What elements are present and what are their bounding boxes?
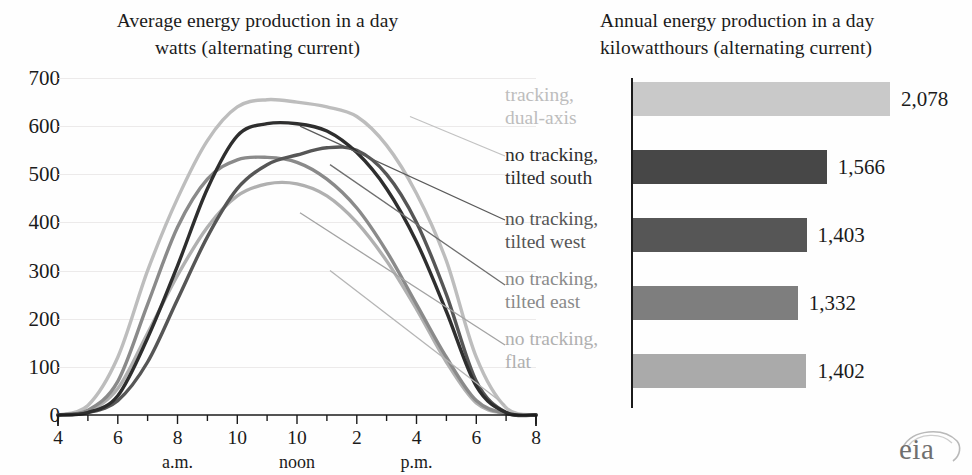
bar[interactable]: [633, 218, 807, 252]
x-axis-tick-label: 6: [98, 427, 138, 449]
x-axis-tick-label: 8: [516, 427, 556, 449]
bar[interactable]: [633, 286, 798, 320]
x-axis-tick-label: 10: [277, 427, 317, 449]
x-axis-period-label: noon: [267, 452, 327, 473]
bar-row[interactable]: 1,566: [633, 150, 963, 184]
x-axis-period-label: p.m.: [387, 452, 447, 473]
eia-logo-text: eia: [899, 433, 934, 466]
bar-value-label: 2,078: [901, 82, 948, 116]
eia-logo: eia: [895, 425, 965, 471]
x-axis-tick-label: 6: [456, 427, 496, 449]
bar-row[interactable]: 1,402: [633, 354, 963, 388]
bar-value-label: 1,403: [818, 218, 865, 252]
legend-leader-line: [330, 271, 505, 405]
bar-chart: 2,0781,5661,4031,3321,402: [600, 60, 972, 475]
bar[interactable]: [633, 82, 890, 116]
line-series: [58, 182, 536, 415]
bar-chart-subtitle: kilowatthours (alternating current): [600, 37, 972, 59]
legend-leader-line: [410, 117, 505, 156]
x-axis-tick-label: 10: [217, 427, 257, 449]
chart-canvas: Average energy production in a day watts…: [0, 0, 972, 475]
legend-leader-line: [330, 165, 505, 285]
bar-row[interactable]: 2,078: [633, 82, 963, 116]
line-chart-title: Average energy production in a day: [0, 10, 515, 32]
bar[interactable]: [633, 150, 827, 184]
bar-value-label: 1,566: [838, 150, 885, 184]
bar-value-label: 1,402: [817, 354, 864, 388]
legend-leader-line: [300, 126, 505, 220]
bar-chart-title: Annual energy production in a day: [600, 10, 972, 32]
x-axis-tick-label: 4: [397, 427, 437, 449]
bar-value-label: 1,332: [809, 286, 856, 320]
legend-leader-line: [300, 213, 505, 345]
x-axis-tick-label: 2: [337, 427, 377, 449]
bar[interactable]: [633, 354, 806, 388]
x-axis-tick-label: 8: [158, 427, 198, 449]
x-axis-tick-label: 4: [38, 427, 78, 449]
x-axis-period-label: a.m.: [148, 452, 208, 473]
bar-row[interactable]: 1,332: [633, 286, 963, 320]
line-chart-subtitle: watts (alternating current): [0, 37, 515, 59]
bar-row[interactable]: 1,403: [633, 218, 963, 252]
